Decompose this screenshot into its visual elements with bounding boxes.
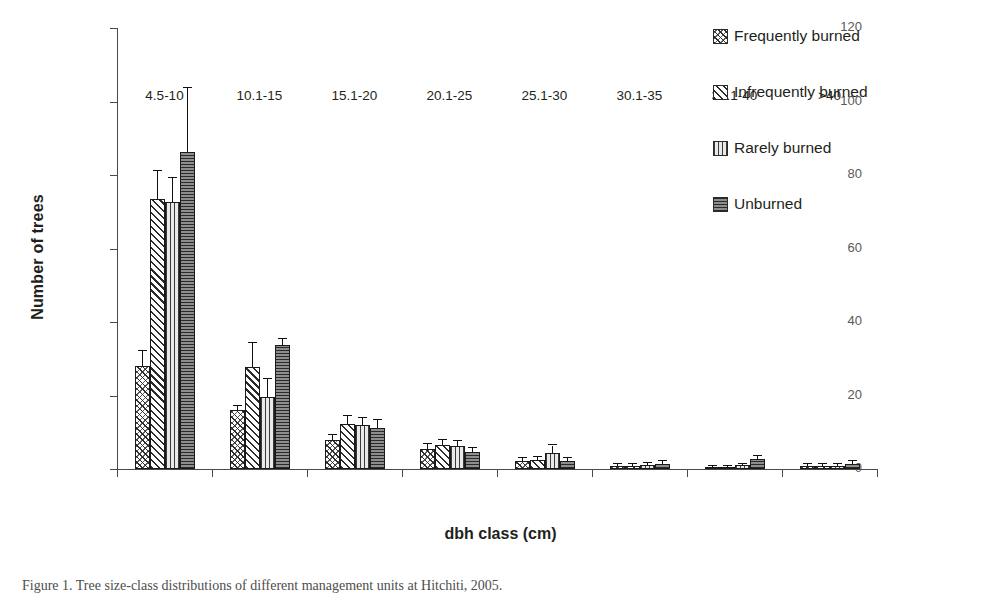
error-bar-cap [248,342,257,343]
error-bar-cap [453,440,462,441]
error-bar [662,461,663,464]
x-tick-label: 20.1-25 [402,88,497,103]
y-tick-mark [110,28,117,29]
error-bar [457,441,458,446]
figure-caption: Figure 1. Tree size-class distributions … [22,578,982,593]
error-bar [362,418,363,425]
bar [830,466,845,469]
bar [435,445,450,469]
bar [845,464,860,470]
error-bar [807,464,808,466]
x-tick-mark [687,469,688,477]
error-bar-cap [753,455,762,456]
y-tick-mark [110,396,117,397]
error-bar-cap [263,378,272,379]
y-tick-mark [110,249,117,250]
bar [135,366,150,469]
x-tick-mark [877,469,878,477]
legend-item[interactable]: Rarely burned [713,139,993,195]
error-bar-cap [468,447,477,448]
error-bar [632,464,633,466]
x-tick-mark [782,469,783,477]
error-bar-cap [833,463,842,464]
error-bar [237,406,238,410]
y-tick-mark [110,322,117,323]
legend-swatch-icon [713,197,728,212]
error-bar [172,178,173,202]
error-bar-cap [848,460,857,461]
legend-item[interactable]: Infrequently burned [713,83,993,139]
error-bar [742,464,743,466]
error-bar [647,463,648,465]
error-bar-cap [278,338,287,339]
bar [750,459,765,469]
bar [340,424,355,469]
error-bar-cap [438,439,447,440]
bar [180,152,195,469]
bar [370,428,385,469]
error-bar-cap [628,463,637,464]
legend-label: Infrequently burned [734,83,868,101]
error-bar-cap [818,463,827,464]
x-tick-mark [117,469,118,477]
error-bar [347,416,348,424]
error-bar [282,339,283,346]
bar [655,464,670,469]
legend-label: Frequently burned [734,27,860,45]
legend-swatch-icon [713,85,728,100]
error-bar [252,343,253,367]
error-bar [617,464,618,466]
bar [245,367,260,469]
bar [450,446,465,469]
bar [560,461,575,469]
error-bar-cap [153,170,162,171]
bar [800,466,815,469]
error-bar-cap [423,443,432,444]
bar [355,425,370,469]
error-bar [442,440,443,445]
y-tick-mark [110,175,117,176]
error-bar [537,457,538,461]
bar [515,461,530,469]
bar [815,466,830,469]
bar [260,397,275,469]
y-tick-mark [110,102,117,103]
error-bar-cap [548,444,557,445]
error-bar [757,456,758,459]
x-tick-label: 25.1-30 [497,88,592,103]
legend-item[interactable]: Frequently burned [713,27,993,83]
error-bar [522,458,523,461]
bar [465,452,480,469]
error-bar [712,466,713,467]
error-bar-cap [613,463,622,464]
chart-legend: Frequently burnedInfrequently burnedRare… [713,27,993,251]
x-tick-mark [402,469,403,477]
error-bar-cap [138,350,147,351]
x-tick-mark [307,469,308,477]
bar [275,345,290,469]
x-axis-title: dbh class (cm) [0,525,1001,543]
x-tick-mark [592,469,593,477]
figure-chart: Number of trees 020406080100120 4.5-1010… [0,0,1001,593]
legend-item[interactable]: Unburned [713,195,993,251]
error-bar-cap [708,465,717,466]
bar [610,466,625,469]
error-bar [427,444,428,449]
error-bar-cap [803,463,812,464]
bar [150,199,165,469]
error-bar [377,420,378,428]
bar [545,453,560,469]
error-bar-cap [343,415,352,416]
error-bar-cap [373,419,382,420]
error-bar [157,171,158,199]
bar [325,440,340,469]
x-tick-label: 15.1-20 [307,88,402,103]
error-bar [267,379,268,397]
error-bar-cap [168,177,177,178]
x-tick-label: 10.1-15 [212,88,307,103]
error-bar-cap [658,460,667,461]
error-bar [142,351,143,366]
error-bar-cap [738,463,747,464]
error-bar-cap [328,434,337,435]
error-bar [552,446,553,454]
